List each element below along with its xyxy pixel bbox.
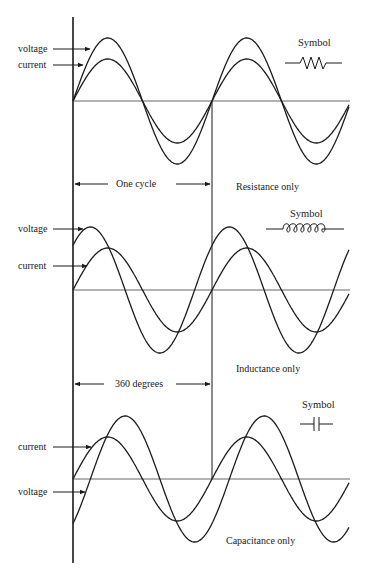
symbol-label: Symbol — [302, 399, 335, 410]
current-label: current — [18, 59, 47, 70]
resistor-symbol-icon — [285, 57, 342, 69]
voltage-label: voltage — [18, 43, 48, 54]
voltage-label: voltage — [18, 486, 48, 497]
capacitor-symbol-icon — [300, 417, 333, 431]
degrees-span-label: 360 degrees — [115, 378, 163, 389]
panel-inductance: voltage current Symbol 360 degrees Induc… — [18, 208, 350, 389]
panel-caption: Capacitance only — [226, 535, 295, 546]
panel-caption: Resistance only — [236, 181, 299, 192]
current-label: current — [18, 260, 47, 271]
cycle-span-label: One cycle — [116, 178, 157, 189]
panel-caption: Inductance only — [236, 363, 300, 374]
current-label: current — [18, 441, 47, 452]
panel-resistance: voltage current Symbol One cycle Resista… — [18, 37, 350, 192]
ac-phase-diagram: voltage current Symbol One cycle Resista… — [0, 0, 368, 581]
panel-capacitance: current voltage Symbol Capacitance only — [18, 399, 350, 546]
symbol-label: Symbol — [298, 37, 331, 48]
voltage-label: voltage — [18, 223, 48, 234]
symbol-label: Symbol — [290, 208, 323, 219]
inductor-symbol-icon — [266, 224, 344, 232]
